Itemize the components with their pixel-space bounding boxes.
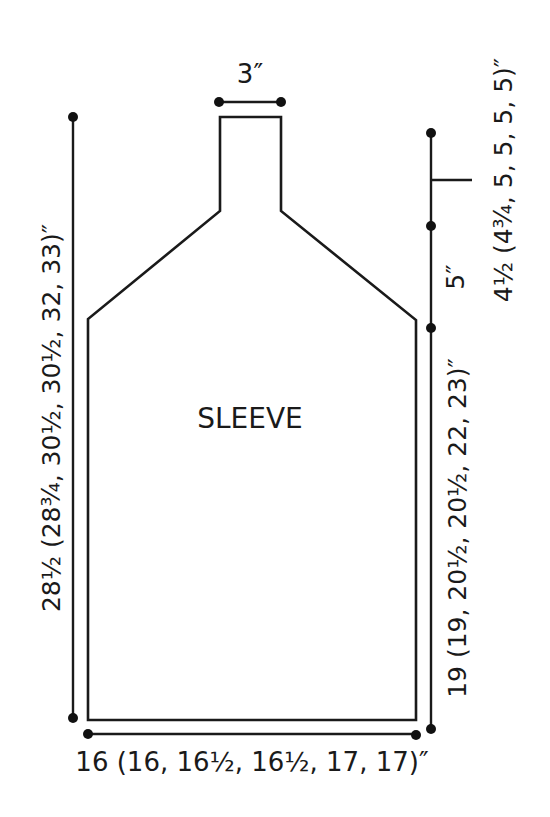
dimension-endpoint-dot	[426, 724, 436, 734]
dimension-endpoint-dot	[83, 729, 93, 739]
dimension-endpoint-dot	[68, 713, 78, 723]
dimension-endpoint-dot	[276, 97, 286, 107]
cap-upper-height-label: 4½ (4¾, 5, 5, 5, 5)″	[489, 58, 518, 302]
piece-label: SLEEVE	[197, 402, 303, 435]
total-length-label: 28½ (28¾, 30½, 30½, 32, 33)″	[37, 224, 66, 612]
bottom-width-dimension: 16 (16, 16½, 16½, 17, 17)″	[75, 729, 429, 777]
dimension-endpoint-dot	[411, 730, 421, 740]
right-dimensions: 4½ (4¾, 5, 5, 5, 5)″ 5″ 19 (19, 20½, 20½…	[426, 58, 518, 734]
dimension-endpoint-dot	[426, 221, 436, 231]
cap-top-width-label: 3″	[237, 59, 264, 89]
cap-top-width-dimension: 3″	[214, 59, 286, 107]
bottom-width-label: 16 (16, 16½, 16½, 17, 17)″	[75, 747, 429, 777]
dimension-endpoint-dot	[214, 97, 224, 107]
sleeve-schematic: SLEEVE 3″ 28½ (28¾, 30½, 30½, 32, 33)″ 4…	[0, 0, 550, 817]
dimension-endpoint-dot	[426, 323, 436, 333]
dimension-endpoint-dot	[426, 128, 436, 138]
cap-shaping-height-label: 5″	[441, 264, 470, 289]
body-length-label: 19 (19, 20½, 20½, 22, 23)″	[443, 358, 472, 698]
dimension-endpoint-dot	[68, 112, 78, 122]
total-length-dimension: 28½ (28¾, 30½, 30½, 32, 33)″	[37, 112, 78, 723]
